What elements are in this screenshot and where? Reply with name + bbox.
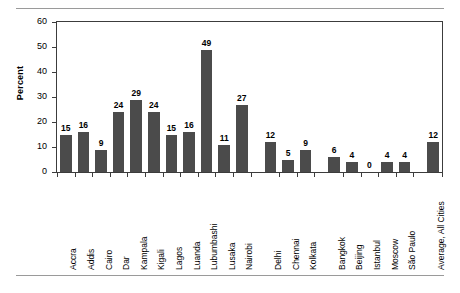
x-axis-tick-mark — [314, 173, 315, 177]
x-axis-category-label: Accra — [69, 248, 78, 270]
x-axis-category-label: Beijing — [355, 244, 364, 270]
bar-value-label: 16 — [176, 120, 202, 130]
x-axis-tick-mark — [127, 173, 128, 177]
x-axis-tick-mark — [215, 173, 216, 177]
bar-value-label: 29 — [123, 88, 149, 98]
bar — [300, 150, 312, 173]
bar-value-label: 4 — [392, 150, 418, 160]
bar-value-label: 24 — [141, 100, 167, 110]
x-axis-category-label: Kolkata — [309, 242, 318, 270]
bar-series: 15169242924151649112712596404412 — [57, 22, 442, 172]
bar — [427, 142, 439, 172]
x-axis-tick-mark — [343, 173, 344, 177]
bar-value-label: 0 — [357, 160, 383, 170]
x-axis-category-label: Average, All Cities — [437, 201, 446, 270]
bar-slot: 4 — [346, 22, 358, 172]
y-axis-tick-label: 0 — [42, 166, 47, 176]
bar — [130, 100, 142, 173]
bar-value-label: 9 — [293, 138, 319, 148]
bar-value-label: 5 — [275, 148, 301, 158]
bar — [148, 112, 160, 172]
x-axis-category-label: Moscow — [391, 239, 400, 270]
x-axis-category-label: Kampala — [140, 236, 149, 270]
bar — [236, 105, 248, 173]
x-axis-category-label: Istanbul — [373, 240, 382, 270]
bar — [201, 50, 213, 173]
bar-slot: 27 — [236, 22, 248, 172]
bar-value-label: 27 — [229, 93, 255, 103]
x-axis-tick-mark — [442, 173, 443, 177]
x-axis-category-label: Delhi — [274, 251, 283, 270]
y-axis-tick-label: 10 — [37, 141, 47, 151]
bar-value-label: 11 — [211, 133, 237, 143]
x-axis-category-label: Dar — [122, 256, 131, 270]
bar-slot: 9 — [95, 22, 107, 172]
bar — [166, 135, 178, 173]
x-axis-tick-mark — [396, 173, 397, 177]
x-axis-tick-mark — [233, 173, 234, 177]
x-axis-category-label: Bangkok — [338, 237, 347, 270]
x-axis-category-label: Lusaka — [228, 243, 237, 270]
bar-slot: 5 — [282, 22, 294, 172]
x-axis-tick-mark — [413, 173, 414, 177]
x-axis-category-label: São Paulo — [408, 231, 417, 270]
x-axis-tick-mark — [57, 173, 58, 177]
bar-value-label: 9 — [88, 138, 114, 148]
bar — [183, 132, 195, 172]
x-axis-category-label: Addis — [87, 249, 96, 270]
bar-slot: 49 — [201, 22, 213, 172]
y-axis-title: Percent — [15, 53, 25, 113]
bar — [399, 162, 411, 172]
bar-value-label: 16 — [71, 120, 97, 130]
y-axis-tick-label: 20 — [37, 116, 47, 126]
x-axis-tick-mark — [198, 173, 199, 177]
chart-figure: Percent 0102030405060 151692429241516491… — [0, 0, 460, 293]
bar — [282, 160, 294, 173]
x-axis-tick-mark — [145, 173, 146, 177]
bar-slot: 29 — [130, 22, 142, 172]
bar — [218, 145, 230, 173]
y-axis-tick-label: 60 — [37, 16, 47, 26]
bar-slot: 12 — [427, 22, 439, 172]
bar-value-label: 12 — [420, 130, 446, 140]
bar-slot: 9 — [300, 22, 312, 172]
x-axis-category-label: Kigali — [157, 249, 166, 270]
bar-value-label: 12 — [258, 130, 284, 140]
x-axis-tick-mark — [75, 173, 76, 177]
bar-value-label: 24 — [106, 100, 132, 110]
x-axis-category-label: Lagos — [175, 247, 184, 270]
x-axis-tick-mark — [378, 173, 379, 177]
x-axis-tick-mark — [163, 173, 164, 177]
bar-slot: 16 — [78, 22, 90, 172]
x-axis-category-label: Nairobi — [245, 243, 254, 270]
bar-value-label: 4 — [339, 150, 365, 160]
x-axis-tick-mark — [110, 173, 111, 177]
bar-slot: 4 — [399, 22, 411, 172]
y-axis-tick-label: 50 — [37, 41, 47, 51]
x-axis-labels: AccraAddisCairoDarKampalaKigaliLagosLuan… — [57, 178, 442, 273]
bar-slot: 15 — [60, 22, 72, 172]
top-divider-rule — [16, 8, 444, 9]
bar — [60, 135, 72, 173]
x-axis-category-label: Chennai — [292, 238, 301, 270]
x-axis-tick-mark — [180, 173, 181, 177]
bar-slot: 15 — [166, 22, 178, 172]
bar — [113, 112, 125, 172]
x-axis-category-label: Cairo — [105, 250, 114, 270]
bottom-divider-rule — [16, 275, 444, 276]
x-axis-tick-mark — [251, 173, 252, 177]
bar-value-label: 49 — [194, 38, 220, 48]
x-axis-tick-mark — [297, 173, 298, 177]
x-axis-category-label: Luanda — [193, 242, 202, 270]
x-axis-tick-mark — [361, 173, 362, 177]
x-axis-tick-mark — [92, 173, 93, 177]
x-axis-category-label: Lubumbashi — [210, 224, 219, 270]
bar — [381, 162, 393, 172]
bar — [95, 150, 107, 173]
y-axis-tick-label: 40 — [37, 66, 47, 76]
y-axis-tick-label: 30 — [37, 91, 47, 101]
bar-slot: 24 — [148, 22, 160, 172]
x-axis-tick-mark — [279, 173, 280, 177]
